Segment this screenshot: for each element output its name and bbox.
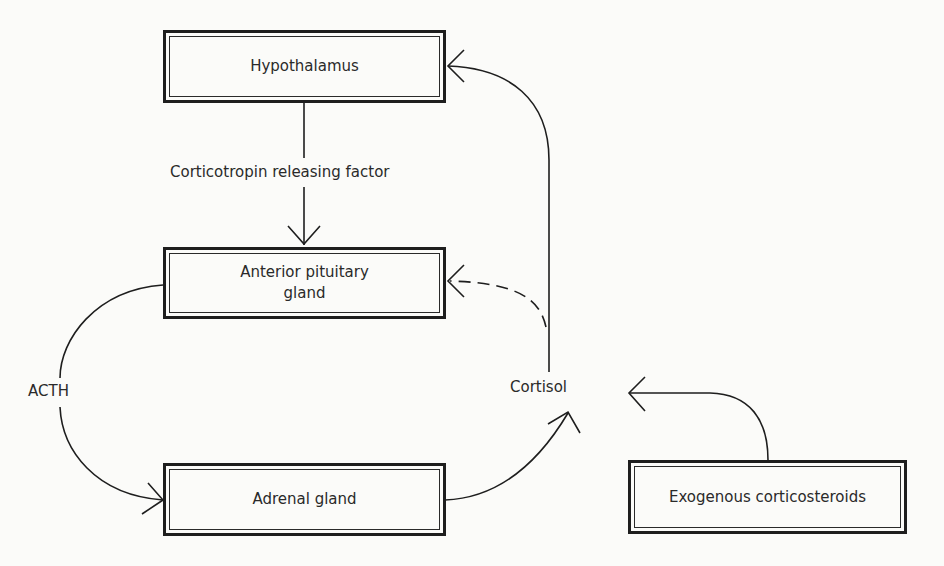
adrenal-to-cortisol-curve (445, 413, 568, 500)
anterior-pituitary-label-line1: Anterior pituitary (240, 262, 369, 283)
exogenous-to-cortisol-arrowhead (629, 377, 645, 411)
anterior-pituitary-node: Anterior pituitary gland (163, 247, 446, 319)
anterior-pituitary-label-line2: gland (240, 283, 369, 304)
cortisol-to-hypothalamus-curve (448, 66, 549, 372)
adrenal-gland-node: Adrenal gland (163, 463, 446, 536)
adrenal-to-cortisol-arrowhead (548, 412, 580, 433)
hypothalamus-label: Hypothalamus (250, 56, 359, 77)
acth-curve-bottom (60, 407, 163, 500)
cortisol-label: Cortisol (508, 378, 569, 396)
crf-label: Corticotropin releasing factor (168, 163, 392, 181)
exogenous-corticosteroids-node: Exogenous corticosteroids (628, 460, 907, 534)
hypothalamus-node: Hypothalamus (163, 30, 446, 103)
acth-label: ACTH (26, 382, 71, 400)
acth-curve-top (60, 285, 163, 378)
adrenal-gland-label: Adrenal gland (252, 489, 356, 510)
cortisol-to-pituitary-dashed-curve (450, 281, 546, 327)
exogenous-corticosteroids-label: Exogenous corticosteroids (669, 487, 866, 508)
exogenous-to-cortisol-curve (630, 393, 768, 460)
